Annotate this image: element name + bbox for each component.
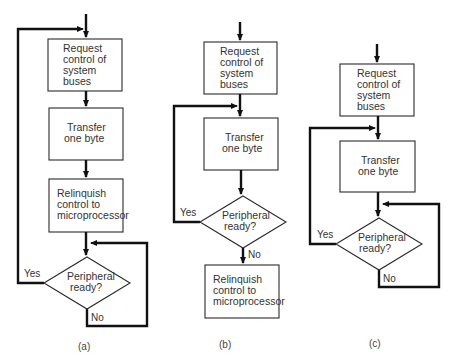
yes-label-a: Yes (24, 268, 40, 279)
no-label-b: No (248, 249, 261, 260)
caption-b: (b) (219, 339, 231, 350)
no-label-a: No (91, 312, 104, 323)
flowchart-canvas: Request control of system buses Transfer… (0, 0, 455, 364)
yes-label-c: Yes (317, 229, 333, 240)
flowchart-c: Request control of system buses Transfer… (310, 44, 439, 349)
step-transfer-byte-a-text: Transfer one byte (64, 121, 109, 144)
no-label-c: No (383, 273, 396, 284)
step-transfer-byte-c-text: Transfer one byte (358, 154, 403, 177)
caption-a: (a) (78, 341, 90, 352)
step-transfer-byte-b-text: Transfer one byte (222, 131, 267, 154)
yes-label-b: Yes (180, 207, 196, 218)
flowchart-a: Request control of system buses Transfer… (18, 14, 147, 352)
caption-c: (c) (369, 338, 381, 349)
flowchart-b: Request control of system buses Transfer… (174, 22, 286, 350)
